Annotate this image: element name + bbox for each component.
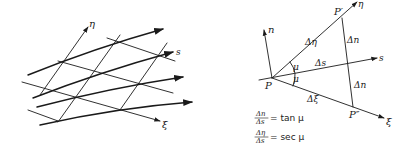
P-double-prime-label: P″ bbox=[348, 109, 360, 120]
eta-label-right: η bbox=[358, 0, 364, 9]
eta-label-left: η bbox=[89, 18, 95, 29]
equation-1-denominator: Δs bbox=[255, 118, 265, 126]
eta-line-1 bbox=[40, 27, 88, 95]
s-label-left: s bbox=[176, 47, 181, 57]
eta-line-3 bbox=[120, 43, 167, 110]
P-label: P bbox=[264, 80, 272, 91]
delta-xi-label: Δξ bbox=[306, 94, 319, 104]
eta-line-2 bbox=[58, 35, 120, 122]
s-label-right: s bbox=[379, 53, 384, 63]
delta-s-label: Δs bbox=[314, 58, 326, 68]
xi-label-right: ξ bbox=[386, 116, 392, 127]
local-geometry-figure: n P P′ P″ η s ξ Δη Δs Δξ Δn Δn μ μ bbox=[259, 0, 392, 127]
mu-upper-label: μ bbox=[293, 62, 299, 72]
equation-2-denominator: Δs bbox=[255, 137, 265, 145]
equation-1-rhs: = tan μ bbox=[270, 113, 304, 123]
streamline-4 bbox=[40, 102, 192, 125]
mu-lower-label: μ bbox=[293, 74, 299, 84]
n-label: n bbox=[268, 24, 274, 35]
characteristic-net-figure: η s ξ bbox=[22, 18, 192, 130]
n-normal-line bbox=[264, 30, 272, 78]
delta-eta-label: Δη bbox=[304, 37, 317, 47]
equation-tan-mu: Δn Δs = tan μ bbox=[255, 110, 304, 126]
equation-2-rhs: = sec μ bbox=[270, 132, 304, 142]
equation-sec-mu: Δη Δs = sec μ bbox=[255, 129, 304, 145]
xi-line-1 bbox=[107, 38, 175, 61]
streamline-1 bbox=[28, 29, 163, 75]
equation-2-numerator: Δη bbox=[255, 129, 266, 137]
xi-characteristic bbox=[272, 78, 384, 118]
P-prime-label: P′ bbox=[333, 6, 344, 17]
delta-n-lower-label: Δn bbox=[353, 80, 366, 90]
characteristics-diagram: η s ξ n P P′ P″ η s ξ Δη Δs Δξ Δn Δn μ μ… bbox=[0, 0, 404, 152]
xi-line-4 bbox=[28, 110, 58, 121]
xi-label-left: ξ bbox=[162, 119, 168, 130]
equation-1-numerator: Δn bbox=[255, 110, 266, 118]
delta-n-upper-label: Δn bbox=[346, 35, 359, 45]
